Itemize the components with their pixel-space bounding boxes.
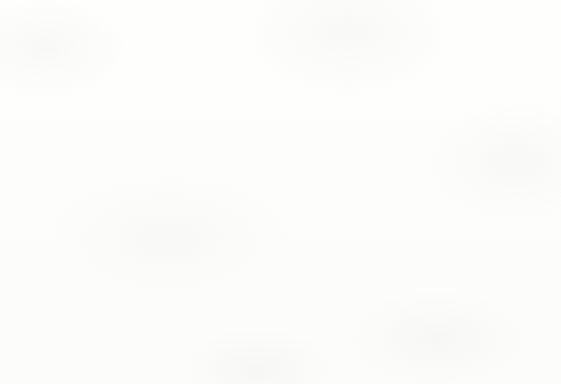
edge-file-system-process-scheduler <box>195 64 265 209</box>
edge-network-interface-process-scheduler <box>221 150 381 211</box>
node-label: File System <box>249 37 305 50</box>
node-initialization[interactable]: Initialization <box>20 308 118 348</box>
node-network-interface[interactable]: Network Interface <box>375 111 475 151</box>
edge-memory-manager-process-scheduler <box>109 157 136 238</box>
burst-arrow <box>452 288 464 304</box>
node-label: Network Interface <box>383 125 467 138</box>
burst-arrow <box>47 289 53 306</box>
node-file-system[interactable]: File System <box>228 23 326 63</box>
node-inter-process-communications[interactable]: Inter-Process Communications <box>307 211 408 253</box>
node-label: Memory Manager <box>89 127 173 140</box>
burst-arrow <box>81 289 87 306</box>
diagram-canvas: File System Memory Manager Network Inter… <box>0 0 561 384</box>
burst-arrow <box>507 285 513 304</box>
burst-arrow <box>28 292 40 306</box>
node-label: Library <box>476 322 509 335</box>
node-label: Inter-Process Communications <box>318 219 398 245</box>
node-label: Initialization <box>41 322 97 335</box>
node-label: Process Scheduler <box>148 229 238 242</box>
edge-memory-manager-file-system <box>135 41 221 110</box>
node-process-scheduler[interactable]: Process Scheduler <box>142 214 243 256</box>
burst-arrow <box>94 292 106 306</box>
node-memory-manager[interactable]: Memory Manager <box>80 113 181 153</box>
burst-arrow <box>520 288 532 304</box>
node-library[interactable]: Library <box>444 308 541 348</box>
library-incoming-burst <box>452 283 532 304</box>
edge-file-system-network-interface <box>327 41 425 105</box>
burst-arrow <box>471 285 477 304</box>
initialization-outgoing-burst <box>28 287 106 306</box>
